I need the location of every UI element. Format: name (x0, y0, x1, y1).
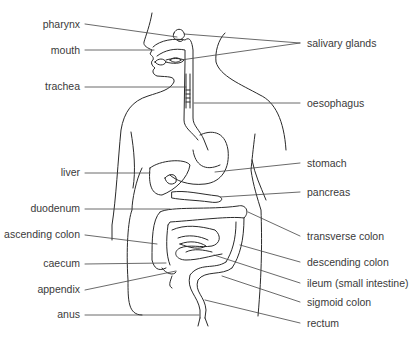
label-stomach: stomach (307, 157, 347, 169)
label-ileum: ileum (small intestine) (307, 277, 409, 289)
label-liver: liver (0, 166, 80, 178)
body-outline (112, 13, 286, 316)
label-transverse-colon: transverse colon (307, 230, 384, 242)
label-appendix: appendix (0, 283, 80, 295)
label-trachea: trachea (0, 80, 80, 92)
label-sigmoid-colon: sigmoid colon (307, 296, 371, 308)
label-duodenum: duodenum (0, 202, 80, 214)
label-pancreas: pancreas (307, 186, 350, 198)
label-oesophagus: oesophagus (307, 97, 364, 109)
digestive-system-diagram: pharynx mouth trachea liver duodenum asc… (0, 0, 409, 337)
label-descending-colon: descending colon (307, 256, 389, 268)
intestines (152, 206, 247, 326)
label-mouth: mouth (0, 44, 80, 56)
label-anus: anus (0, 308, 80, 320)
stomach-liver (150, 132, 229, 202)
label-pharynx: pharynx (0, 18, 80, 30)
label-caecum: caecum (0, 257, 80, 269)
label-ascending-colon: ascending colon (0, 228, 80, 240)
label-salivary-glands: salivary glands (307, 37, 376, 49)
upper-tract (153, 29, 208, 150)
label-rectum: rectum (307, 317, 339, 329)
